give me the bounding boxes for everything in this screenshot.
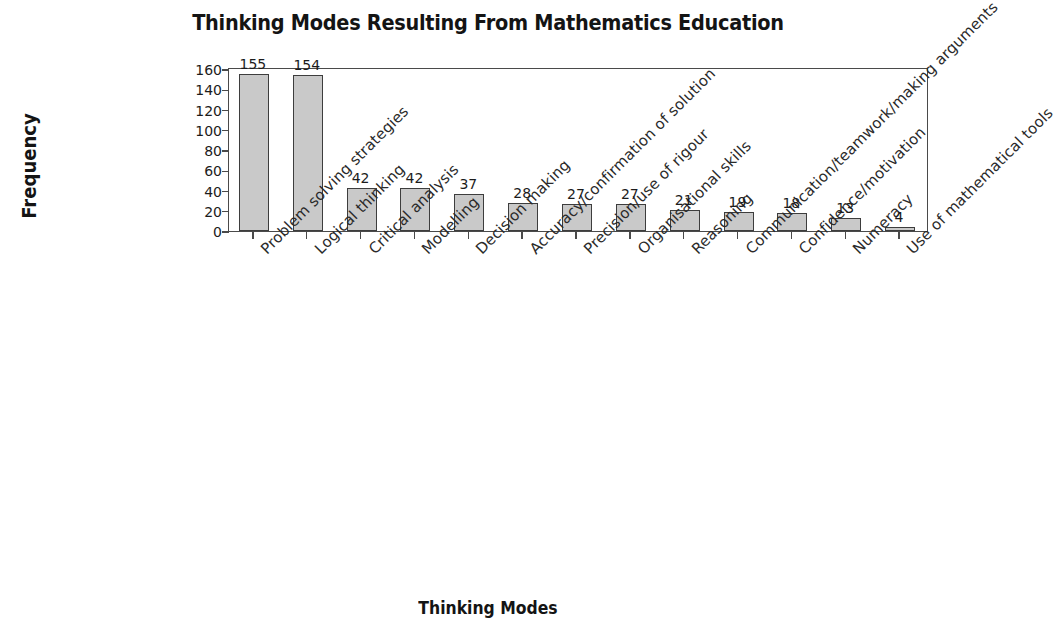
x-tick-mark [306,232,307,239]
x-tick-mark [468,232,469,239]
y-axis-tick-labels: 160140120100806040200 [178,68,222,231]
y-tick-mark [222,69,229,70]
y-tick-mark [222,110,229,111]
y-tick-label: 60 [182,163,222,179]
bar-value-label: 18 [782,195,800,211]
bar-value-label: 21 [675,192,693,208]
y-tick-mark [222,90,229,91]
x-tick-mark [845,232,846,239]
y-tick-mark [222,130,229,131]
bar-value-label: 155 [240,56,267,72]
bar-value-label: 13 [836,200,854,216]
y-tick-mark [222,211,229,212]
x-axis-title: Thinking Modes [39,598,937,618]
bar-value-label: 42 [352,170,370,186]
y-tick-mark [222,231,229,232]
bar-value-label: 154 [293,57,320,73]
bar[interactable] [239,74,269,231]
y-tick-mark [222,150,229,151]
x-tick-mark [521,232,522,239]
x-tick-mark [252,232,253,239]
x-tick-mark [360,232,361,239]
y-tick-label: 140 [182,82,222,98]
x-tick-mark [898,232,899,239]
y-tick-label: 120 [182,103,222,119]
bar-value-label: 27 [567,186,585,202]
y-tick-mark [222,171,229,172]
bar-value-label: 37 [459,176,477,192]
y-tick-label: 0 [182,224,222,240]
y-tick-label: 40 [182,184,222,200]
y-tick-label: 80 [182,143,222,159]
x-tick-mark [737,232,738,239]
y-tick-mark [222,191,229,192]
y-tick-label: 160 [182,62,222,78]
y-axis-title: Frequency [18,100,40,233]
x-tick-mark [414,232,415,239]
x-tick-mark [683,232,684,239]
x-tick-mark [791,232,792,239]
chart-title: Thinking Modes Resulting From Mathematic… [39,11,937,35]
y-tick-label: 20 [182,204,222,220]
bar-value-label: 4 [895,209,904,225]
y-tick-label: 100 [182,123,222,139]
bar-value-label: 28 [513,185,531,201]
bar-value-label: 42 [406,170,424,186]
x-tick-mark [629,232,630,239]
x-tick-mark [575,232,576,239]
bar-value-label: 27 [621,186,639,202]
bar-value-label: 19 [729,194,747,210]
